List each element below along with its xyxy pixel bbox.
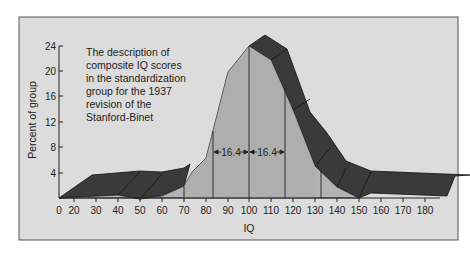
svg-text:100: 100 [241, 205, 258, 216]
svg-text:40: 40 [112, 205, 124, 216]
svg-text:60: 60 [156, 205, 168, 216]
chart-figure: 16.4 16.4 24 20 16 12 8 4 0 20 30 40 50 [0, 0, 470, 256]
svg-text:20: 20 [68, 205, 80, 216]
svg-text:180: 180 [417, 205, 434, 216]
svg-text:20: 20 [45, 66, 57, 77]
x-axis-label: IQ [243, 222, 254, 234]
interval-label-left: 16.4 [221, 147, 241, 158]
svg-text:8: 8 [50, 142, 56, 153]
svg-text:130: 130 [307, 205, 324, 216]
svg-text:group for the 1937: group for the 1937 [86, 85, 172, 97]
x-tick-labels: 0 20 30 40 50 60 70 80 90 100 110 120 13… [56, 205, 434, 216]
y-axis-label: Percent of group [26, 81, 38, 159]
svg-text:The description of: The description of [86, 46, 170, 58]
svg-text:170: 170 [395, 205, 412, 216]
svg-text:16: 16 [45, 91, 57, 102]
svg-text:50: 50 [134, 205, 146, 216]
svg-text:140: 140 [329, 205, 346, 216]
svg-text:Stanford-Binet: Stanford-Binet [86, 111, 153, 123]
svg-text:4: 4 [50, 168, 56, 179]
svg-text:80: 80 [200, 205, 212, 216]
svg-text:120: 120 [285, 205, 302, 216]
svg-text:160: 160 [373, 205, 390, 216]
svg-text:composite IQ scores: composite IQ scores [86, 59, 182, 71]
svg-text:110: 110 [263, 205, 279, 216]
svg-text:90: 90 [222, 205, 234, 216]
svg-text:in the standardization: in the standardization [86, 72, 186, 84]
interval-label-right: 16.4 [257, 147, 277, 158]
svg-text:0: 0 [56, 205, 62, 216]
svg-text:30: 30 [90, 205, 102, 216]
svg-text:12: 12 [45, 117, 57, 128]
svg-text:150: 150 [351, 205, 368, 216]
svg-text:revision of the: revision of the [86, 98, 152, 110]
svg-text:70: 70 [178, 205, 190, 216]
svg-text:24: 24 [45, 41, 57, 52]
